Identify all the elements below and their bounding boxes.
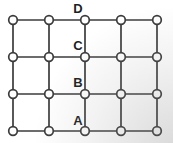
grid-node-r4c4 (117, 127, 126, 136)
node-label-C: C (73, 38, 83, 53)
grid-node-r3c4 (117, 90, 126, 99)
grid-node-r1c1 (9, 16, 18, 25)
lattice-diagram: DCBA (0, 0, 173, 143)
grid-node-r3c3 (81, 90, 90, 99)
grid-node-r1c3 (81, 16, 90, 25)
grid-node-r2c5 (153, 53, 162, 62)
node-label-A: A (73, 113, 83, 128)
node-label-B: B (73, 75, 82, 90)
grid-node-r2c4 (117, 53, 126, 62)
grid-node-r3c2 (45, 90, 54, 99)
grid-node-r3c1 (9, 90, 18, 99)
grid-node-r1c4 (117, 16, 126, 25)
node-label-D: D (73, 1, 82, 16)
grid-node-r4c5 (153, 127, 162, 136)
grid-node-r4c1 (9, 127, 18, 136)
grid-node-r3c5 (153, 90, 162, 99)
grid-node-r2c3 (81, 53, 90, 62)
lattice-grid-canvas: DCBA (0, 0, 173, 143)
grid-node-r1c5 (153, 16, 162, 25)
grid-node-r2c2 (45, 53, 54, 62)
grid-node-r4c2 (45, 127, 54, 136)
grid-node-r2c1 (9, 53, 18, 62)
grid-node-r1c2 (45, 16, 54, 25)
